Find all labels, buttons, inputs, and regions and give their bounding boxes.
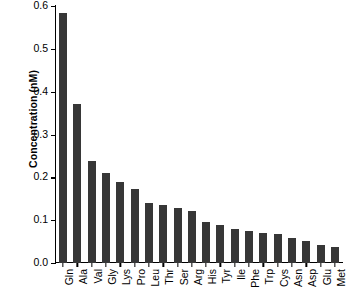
- bar: [216, 225, 224, 263]
- x-axis-tick-label: Lys: [120, 269, 132, 285]
- bar-group: Ala: [70, 6, 84, 263]
- bar: [145, 203, 153, 263]
- bar: [288, 238, 296, 263]
- bar-chart: Concentration (nM) 0.00.10.20.30.40.50.6…: [0, 0, 346, 293]
- x-axis-tick-label: Arg: [192, 269, 204, 285]
- y-axis-tick-label: 0.1: [33, 213, 48, 225]
- bar-group: Cys: [271, 6, 285, 263]
- bar: [317, 245, 325, 263]
- x-axis-tick-label: Ile: [235, 269, 247, 280]
- bar: [159, 205, 167, 263]
- x-axis-tick-mark: [320, 263, 321, 267]
- x-axis-tick-label: Phe: [249, 269, 261, 288]
- bar-group: Ser: [170, 6, 184, 263]
- bar: [188, 211, 196, 263]
- x-axis-tick-label: His: [206, 269, 218, 284]
- y-axis-tick-label: 0.2: [33, 170, 48, 182]
- bar: [174, 208, 182, 263]
- bar: [302, 241, 310, 263]
- x-axis-tick-label: Trp: [263, 269, 275, 284]
- x-axis-tick-mark: [77, 263, 78, 267]
- bar: [102, 173, 110, 263]
- y-axis-tick-label: 0.0: [33, 256, 48, 268]
- bar-group: Tyr: [213, 6, 227, 263]
- x-axis-tick-mark: [134, 263, 135, 267]
- bar-group: Gly: [99, 6, 113, 263]
- x-axis-tick-mark: [163, 263, 164, 267]
- bar-group: Gln: [56, 6, 70, 263]
- x-axis-tick-mark: [306, 263, 307, 267]
- plot-area: 0.00.10.20.30.40.50.6 GlnAlaValGlyLysPro…: [56, 6, 342, 263]
- y-axis-tick-label: 0.4: [33, 85, 48, 97]
- x-axis-tick-label: Val: [92, 269, 104, 283]
- bar: [274, 234, 282, 263]
- x-axis-tick-label: Met: [335, 269, 346, 287]
- x-axis-tick-label: Ala: [77, 269, 89, 284]
- x-axis-tick-mark: [191, 263, 192, 267]
- x-axis-tick-label: Asn: [292, 269, 304, 287]
- bar: [202, 222, 210, 263]
- y-axis-tick-label: 0.5: [33, 42, 48, 54]
- x-axis-tick-mark: [291, 263, 292, 267]
- bar: [259, 233, 267, 263]
- bar: [331, 247, 339, 263]
- bar-group: Leu: [142, 6, 156, 263]
- bar-group: Arg: [185, 6, 199, 263]
- x-axis-tick-mark: [248, 263, 249, 267]
- x-axis-tick-mark: [177, 263, 178, 267]
- x-axis-tick-label: Thr: [163, 269, 175, 285]
- x-axis-tick-mark: [105, 263, 106, 267]
- bar-group: Trp: [256, 6, 270, 263]
- bar-group: Asp: [299, 6, 313, 263]
- x-axis-tick-label: Leu: [149, 269, 161, 287]
- x-axis-tick-mark: [220, 263, 221, 267]
- x-axis-tick-label: Pro: [135, 269, 147, 285]
- y-axis-tick-label: 0.3: [33, 128, 48, 140]
- bar-group: Ile: [228, 6, 242, 263]
- x-axis-tick-mark: [234, 263, 235, 267]
- bar: [131, 189, 139, 263]
- x-axis-tick-label: Gly: [106, 269, 118, 285]
- x-axis-tick-label: Cys: [278, 269, 290, 287]
- bar: [73, 104, 81, 263]
- bar-group: Pro: [128, 6, 142, 263]
- bar: [59, 13, 67, 263]
- bar-series: GlnAlaValGlyLysProLeuThrSerArgHisTyrIleP…: [56, 6, 342, 263]
- x-axis-tick-label: Tyr: [220, 269, 232, 284]
- bar-group: Phe: [242, 6, 256, 263]
- bar-group: Met: [328, 6, 342, 263]
- bar: [116, 182, 124, 263]
- bar-group: Glu: [313, 6, 327, 263]
- x-axis-tick-mark: [263, 263, 264, 267]
- bar-group: His: [199, 6, 213, 263]
- y-axis-tick-label: 0.6: [33, 0, 48, 11]
- x-axis-tick-label: Gln: [63, 269, 75, 285]
- bar: [231, 229, 239, 263]
- x-axis-tick-label: Asp: [306, 269, 318, 287]
- x-axis-tick-mark: [148, 263, 149, 267]
- x-axis-tick-label: Glu: [321, 269, 333, 285]
- x-axis-tick-mark: [120, 263, 121, 267]
- x-axis-tick-label: Ser: [178, 269, 190, 285]
- y-axis-tick-mark: [51, 263, 56, 264]
- x-axis-tick-mark: [334, 263, 335, 267]
- x-axis-tick-mark: [205, 263, 206, 267]
- bar-group: Val: [85, 6, 99, 263]
- bar: [245, 231, 253, 263]
- x-axis-tick-mark: [277, 263, 278, 267]
- bar: [88, 161, 96, 263]
- x-axis-tick-mark: [62, 263, 63, 267]
- bar-group: Thr: [156, 6, 170, 263]
- bar-group: Lys: [113, 6, 127, 263]
- x-axis-tick-mark: [91, 263, 92, 267]
- bar-group: Asn: [285, 6, 299, 263]
